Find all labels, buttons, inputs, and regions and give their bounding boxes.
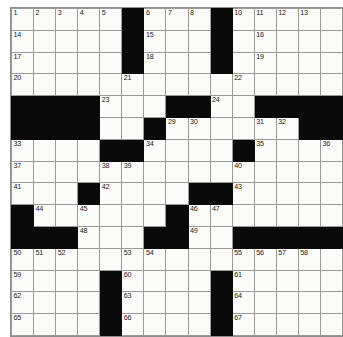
crossword-cell[interactable] [188,161,210,183]
crossword-cell[interactable] [56,292,78,314]
crossword-cell[interactable] [34,270,56,292]
crossword-cell[interactable]: 36 [320,139,342,161]
crossword-cell[interactable]: 60 [122,270,144,292]
crossword-cell[interactable] [298,205,320,227]
crossword-cell[interactable] [320,52,342,74]
crossword-cell[interactable]: 50 [12,248,34,270]
crossword-cell[interactable]: 15 [144,30,166,52]
crossword-cell[interactable] [276,314,298,336]
crossword-cell[interactable] [254,292,276,314]
crossword-cell[interactable]: 35 [254,139,276,161]
crossword-cell[interactable] [320,205,342,227]
crossword-cell[interactable]: 34 [144,139,166,161]
crossword-cell[interactable] [122,183,144,205]
crossword-cell[interactable]: 40 [232,161,254,183]
crossword-cell[interactable] [320,314,342,336]
crossword-cell[interactable]: 42 [100,183,122,205]
crossword-cell[interactable] [100,248,122,270]
crossword-cell[interactable] [320,248,342,270]
crossword-cell[interactable]: 47 [210,205,232,227]
crossword-cell[interactable] [34,30,56,52]
crossword-cell[interactable]: 5 [100,9,122,31]
crossword-cell[interactable] [298,30,320,52]
crossword-cell[interactable] [166,74,188,96]
crossword-cell[interactable]: 59 [12,270,34,292]
crossword-cell[interactable] [254,314,276,336]
crossword-cell[interactable] [166,161,188,183]
crossword-cell[interactable] [34,314,56,336]
crossword-cell[interactable] [188,270,210,292]
crossword-cell[interactable] [100,226,122,248]
crossword-cell[interactable] [232,205,254,227]
crossword-cell[interactable] [210,74,232,96]
crossword-cell[interactable]: 19 [254,52,276,74]
crossword-cell[interactable] [298,161,320,183]
crossword-cell[interactable]: 37 [12,161,34,183]
crossword-cell[interactable] [78,139,100,161]
crossword-cell[interactable] [210,161,232,183]
crossword-cell[interactable] [232,52,254,74]
crossword-cell[interactable]: 23 [100,96,122,118]
crossword-cell[interactable] [100,30,122,52]
crossword-cell[interactable]: 66 [122,314,144,336]
crossword-cell[interactable]: 18 [144,52,166,74]
crossword-cell[interactable]: 48 [78,226,100,248]
crossword-cell[interactable] [100,205,122,227]
crossword-cell[interactable]: 57 [276,248,298,270]
crossword-cell[interactable] [56,314,78,336]
crossword-cell[interactable]: 13 [298,9,320,31]
crossword-cell[interactable] [100,117,122,139]
crossword-cell[interactable]: 33 [12,139,34,161]
crossword-cell[interactable] [188,314,210,336]
crossword-cell[interactable]: 43 [232,183,254,205]
crossword-cell[interactable] [320,9,342,31]
crossword-cell[interactable] [56,74,78,96]
crossword-cell[interactable] [34,292,56,314]
crossword-cell[interactable] [298,270,320,292]
crossword-cell[interactable] [188,248,210,270]
crossword-cell[interactable] [144,205,166,227]
crossword-cell[interactable] [320,292,342,314]
crossword-cell[interactable] [166,292,188,314]
crossword-cell[interactable] [276,270,298,292]
crossword-cell[interactable] [210,248,232,270]
crossword-cell[interactable] [166,248,188,270]
crossword-cell[interactable]: 65 [12,314,34,336]
crossword-cell[interactable] [78,161,100,183]
crossword-cell[interactable] [298,314,320,336]
crossword-cell[interactable]: 39 [122,161,144,183]
crossword-cell[interactable]: 31 [254,117,276,139]
crossword-cell[interactable] [34,74,56,96]
crossword-cell[interactable] [276,183,298,205]
crossword-cell[interactable] [122,96,144,118]
crossword-cell[interactable]: 51 [34,248,56,270]
crossword-cell[interactable] [276,74,298,96]
crossword-cell[interactable]: 46 [188,205,210,227]
crossword-cell[interactable]: 63 [122,292,144,314]
crossword-cell[interactable] [56,161,78,183]
crossword-cell[interactable] [56,183,78,205]
crossword-cell[interactable] [166,314,188,336]
crossword-cell[interactable] [298,292,320,314]
crossword-cell[interactable] [254,183,276,205]
crossword-cell[interactable]: 61 [232,270,254,292]
crossword-cell[interactable] [78,248,100,270]
crossword-cell[interactable] [78,314,100,336]
crossword-cell[interactable] [34,52,56,74]
crossword-cell[interactable] [188,139,210,161]
crossword-cell[interactable] [210,117,232,139]
crossword-cell[interactable]: 11 [254,9,276,31]
crossword-cell[interactable]: 58 [298,248,320,270]
crossword-cell[interactable]: 14 [12,30,34,52]
crossword-cell[interactable] [144,74,166,96]
crossword-cell[interactable] [254,205,276,227]
crossword-cell[interactable] [144,183,166,205]
crossword-cell[interactable] [320,74,342,96]
crossword-cell[interactable] [166,270,188,292]
crossword-cell[interactable] [144,314,166,336]
crossword-cell[interactable] [298,139,320,161]
crossword-cell[interactable]: 41 [12,183,34,205]
crossword-cell[interactable] [56,52,78,74]
crossword-cell[interactable] [166,183,188,205]
crossword-cell[interactable]: 67 [232,314,254,336]
